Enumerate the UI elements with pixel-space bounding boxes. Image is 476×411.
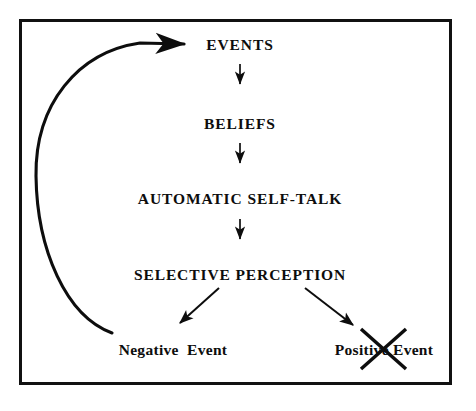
node-selective-perception: SELECTIVE PERCEPTION bbox=[134, 266, 346, 284]
node-negative-event: Negative Event bbox=[119, 341, 228, 359]
node-positive-event: Positive Event bbox=[335, 341, 433, 359]
node-automatic-self-talk: AUTOMATIC SELF-TALK bbox=[138, 190, 342, 208]
node-beliefs: BELIEFS bbox=[204, 115, 276, 133]
diagram-canvas: EVENTS BELIEFS AUTOMATIC SELF-TALK SELEC… bbox=[0, 0, 476, 411]
node-events: EVENTS bbox=[206, 36, 273, 54]
